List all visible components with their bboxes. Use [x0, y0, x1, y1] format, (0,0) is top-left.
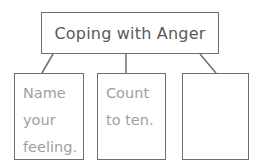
child-box-1: Name your feeling. — [14, 73, 84, 160]
title-text: Coping with Anger — [54, 24, 205, 43]
child-text-2: Count to ten. — [106, 80, 165, 134]
concept-map: Coping with Anger Name your feeling. Cou… — [0, 0, 262, 166]
child-box-3-empty[interactable] — [182, 73, 249, 160]
title-box: Coping with Anger — [41, 12, 219, 54]
child-text-1: Name your feeling. — [23, 80, 83, 161]
child-box-2: Count to ten. — [97, 73, 166, 160]
